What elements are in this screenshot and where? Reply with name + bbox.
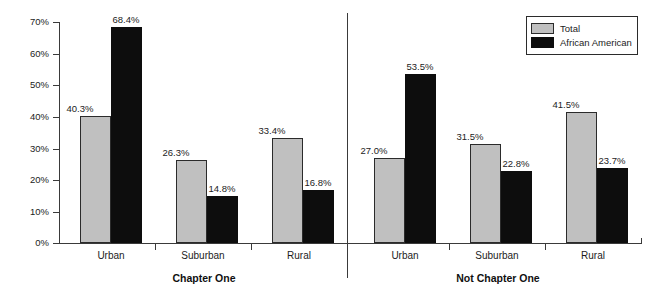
- y-axis-label-50: 50%: [4, 80, 49, 90]
- bar-value-not-chapter-one-rural-total: 41.5%: [543, 99, 589, 110]
- category-label-not-chapter-one-rural: Rural: [548, 250, 638, 261]
- y-tick-70: [53, 22, 59, 23]
- y-tick-30: [53, 149, 59, 150]
- bar-value-chapter-one-urban-african-american: 68.4%: [103, 14, 149, 25]
- legend-item-african-american: African American: [531, 36, 632, 49]
- bar-value-not-chapter-one-urban-total: 27.0%: [351, 145, 397, 156]
- bar-value-not-chapter-one-suburban-african-american: 22.8%: [493, 158, 539, 169]
- legend: Total African American: [526, 16, 638, 55]
- y-tick-60: [53, 54, 59, 55]
- bar-value-chapter-one-rural-total: 33.4%: [249, 125, 295, 136]
- category-label-chapter-one-suburban: Suburban: [158, 250, 248, 261]
- group-label-chapter-one: Chapter One: [84, 272, 324, 284]
- x-axis-line: [59, 243, 642, 244]
- bar-not-chapter-one-rural-african-american: [597, 168, 628, 243]
- bar-not-chapter-one-urban-total: [374, 158, 405, 243]
- y-axis-line: [59, 22, 60, 244]
- y-tick-0: [53, 243, 59, 244]
- plot-area: 70% 60% 50% 40% 30% 20% 10% 0% 40.3% 68.…: [0, 0, 651, 297]
- bar-value-not-chapter-one-urban-african-american: 53.5%: [397, 61, 443, 72]
- legend-label-african-american: African American: [560, 37, 632, 48]
- bar-chapter-one-suburban-african-american: [207, 196, 238, 243]
- y-axis-label-60: 60%: [4, 49, 49, 59]
- category-label-not-chapter-one-urban: Urban: [360, 250, 450, 261]
- bar-not-chapter-one-urban-african-american: [405, 74, 436, 243]
- bar-chapter-one-rural-african-american: [303, 190, 334, 243]
- x-axis-end-cap: [641, 238, 642, 244]
- bar-chapter-one-rural-total: [272, 138, 303, 243]
- bar-value-chapter-one-rural-african-american: 16.8%: [295, 177, 341, 188]
- bar-chapter-one-suburban-total: [176, 160, 207, 243]
- legend-label-total: Total: [560, 23, 580, 34]
- y-axis-label-0: 0%: [4, 238, 49, 248]
- legend-item-total: Total: [531, 22, 632, 35]
- african-american-swatch-icon: [531, 37, 554, 48]
- bar-value-not-chapter-one-rural-african-american: 23.7%: [589, 155, 635, 166]
- bar-value-chapter-one-suburban-total: 26.3%: [153, 147, 199, 158]
- total-swatch-icon: [531, 23, 554, 34]
- bar-not-chapter-one-rural-total: [566, 112, 597, 243]
- grouped-bar-chart: 70% 60% 50% 40% 30% 20% 10% 0% 40.3% 68.…: [0, 0, 651, 297]
- category-tick-not-chapter-one-2: [545, 244, 546, 250]
- group-label-not-chapter-one: Not Chapter One: [378, 272, 618, 284]
- y-axis-label-40: 40%: [4, 112, 49, 122]
- bar-value-chapter-one-urban-total: 40.3%: [57, 103, 103, 114]
- y-axis-label-30: 30%: [4, 144, 49, 154]
- y-tick-20: [53, 180, 59, 181]
- bar-chapter-one-urban-african-american: [111, 27, 142, 243]
- bar-value-not-chapter-one-suburban-total: 31.5%: [447, 131, 493, 142]
- category-label-chapter-one-urban: Urban: [66, 250, 156, 261]
- bar-value-chapter-one-suburban-african-american: 14.8%: [199, 183, 245, 194]
- y-tick-10: [53, 212, 59, 213]
- group-divider: [347, 13, 348, 278]
- y-tick-40: [53, 117, 59, 118]
- y-axis-label-70: 70%: [4, 17, 49, 27]
- y-axis-label-20: 20%: [4, 175, 49, 185]
- bar-not-chapter-one-suburban-african-american: [501, 171, 532, 243]
- category-tick-chapter-one-2: [251, 244, 252, 250]
- category-label-not-chapter-one-suburban: Suburban: [452, 250, 542, 261]
- y-axis-label-10: 10%: [4, 207, 49, 217]
- bar-chapter-one-urban-total: [80, 116, 111, 243]
- category-label-chapter-one-rural: Rural: [254, 250, 344, 261]
- y-tick-50: [53, 85, 59, 86]
